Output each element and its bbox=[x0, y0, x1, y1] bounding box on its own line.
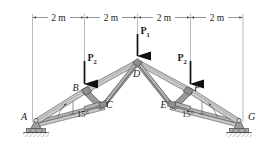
dimension-label-2: 2 m bbox=[104, 13, 119, 23]
joint-label-B: B bbox=[73, 82, 79, 93]
angle-label-right: 15° bbox=[182, 109, 194, 119]
truss-figure-container: 2 m 2 m 2 m 2 m bbox=[0, 0, 274, 146]
dimension-label-4: 2 m bbox=[210, 13, 225, 23]
joint-label-D: D bbox=[132, 68, 141, 79]
truss-diagram: 2 m 2 m 2 m 2 m bbox=[0, 0, 274, 146]
joint-label-F: F bbox=[193, 82, 201, 93]
ground-hatch-A bbox=[23, 133, 49, 138]
angle-label-left: 15° bbox=[77, 109, 89, 119]
joint-label-E: E bbox=[160, 99, 167, 110]
joint-label-C: C bbox=[106, 99, 113, 110]
load-label-P2-left: P2 bbox=[88, 52, 97, 65]
joint-labels: A B C D E F G bbox=[20, 68, 255, 122]
load-label-P2-right: P2 bbox=[178, 52, 187, 65]
pin-circle-A bbox=[34, 118, 38, 122]
ground-hatch-G bbox=[226, 133, 252, 138]
load-label-P1: P1 bbox=[141, 25, 150, 38]
pin-circle-G bbox=[237, 118, 241, 122]
dimension-label-1: 2 m bbox=[51, 13, 66, 23]
joint-label-G: G bbox=[248, 111, 255, 122]
dimension-label-3: 2 m bbox=[157, 13, 172, 23]
joint-label-A: A bbox=[20, 111, 28, 122]
